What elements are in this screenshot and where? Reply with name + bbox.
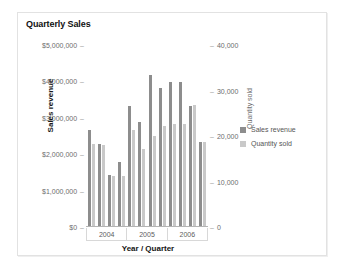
y-axis-left-tick: $5,000,000– [42,42,84,49]
x-axis-baseline [86,226,208,227]
x-axis-group-label: 2005 [127,228,167,240]
tick-mark: – [210,178,214,185]
quarter-bar-group [96,45,106,226]
y-axis-left-title: Sales revenue [46,66,55,146]
tick-mark: – [210,42,214,49]
bar-sales-revenue [169,82,172,226]
y-axis-right-tick: –30,000 [210,87,238,94]
quarter-bar-group [137,45,147,226]
y-axis-left-tick: $1,000,000– [42,187,84,194]
plot-area [86,45,208,227]
quarter-bar-group [178,45,188,226]
bar-quantity-sold [203,142,206,226]
y-axis-left-tick-label: $2,000,000 [42,151,77,158]
bar-sales-revenue [128,106,131,226]
bar-sales-revenue [189,106,192,226]
bar-quantity-sold [183,124,186,226]
bar-sales-revenue [149,75,152,226]
x-axis-group-label: 2004 [87,228,127,240]
quarter-bar-group [117,45,127,226]
quarter-bar-group [127,45,137,226]
bar-quantity-sold [153,136,156,226]
bar-quantity-sold [102,145,105,226]
bar-quantity-sold [132,130,135,226]
legend-label: Sales revenue [251,126,296,133]
quarter-bar-group [157,45,167,226]
y-axis-right-tick-label: 40,000 [217,42,238,49]
y-axis-left-tick-label: $0 [69,224,77,231]
bar-quantity-sold [122,176,125,226]
x-axis-title: Year / Quarter [58,244,238,253]
y-axis-right-tick-label: 0 [217,224,221,231]
quarter-bar-group [106,45,116,226]
bar-quantity-sold [112,176,115,226]
bar-sales-revenue [138,122,141,226]
quarter-bar-group [188,45,198,226]
bar-quantity-sold [173,124,176,226]
chart-legend: Sales revenueQuantity sold [240,126,326,154]
tick-mark: – [210,133,214,140]
y-axis-right-tick: –10,000 [210,178,238,185]
x-axis-group-label: 2006 [168,228,207,240]
y-axis-right-tick: –40,000 [210,42,238,49]
tick-mark: – [80,78,84,85]
bar-sales-revenue [98,144,101,226]
legend-item[interactable]: Sales revenue [240,126,326,133]
tick-mark: – [80,42,84,49]
y-axis-right-tick: –0 [210,224,221,231]
y-axis-right-tick-label: 10,000 [217,178,238,185]
bar-quantity-sold [142,149,145,226]
bar-series-container [86,45,208,226]
bar-sales-revenue [88,130,91,226]
bar-sales-revenue [179,82,182,226]
tick-mark: – [80,187,84,194]
tick-mark: – [80,224,84,231]
chart-title: Quarterly Sales [26,19,91,29]
chart-panel: Quarterly Sales $0–$1,000,000–$2,000,000… [17,12,327,256]
bar-sales-revenue [199,142,202,226]
y-axis-left-tick: $2,000,000– [42,151,84,158]
legend-swatch-icon [240,141,246,147]
legend-label: Quantity sold [251,140,292,147]
x-axis-groups: 200420052006 [86,228,208,241]
tick-mark: – [80,151,84,158]
bar-sales-revenue [159,88,162,226]
y-axis-left-tick-label: $5,000,000 [42,42,77,49]
quarter-bar-group [147,45,157,226]
bar-quantity-sold [193,105,196,226]
tick-mark: – [210,87,214,94]
legend-swatch-icon [240,127,246,133]
bar-quantity-sold [163,126,166,226]
chart-screenshot: Quarterly Sales $0–$1,000,000–$2,000,000… [0,0,347,272]
y-axis-left-tick-label: $1,000,000 [42,187,77,194]
quarter-bar-group [198,45,208,226]
y-axis-right-tick: –20,000 [210,133,238,140]
legend-item[interactable]: Quantity sold [240,140,326,147]
tick-mark: – [210,224,214,231]
quarter-bar-group [167,45,177,226]
bar-quantity-sold [92,144,95,226]
y-axis-right-tick-label: 30,000 [217,87,238,94]
bar-sales-revenue [108,175,111,226]
tick-mark: – [80,114,84,121]
y-axis-right-tick-label: 20,000 [217,133,238,140]
y-axis-left-tick: $0– [69,224,84,231]
bar-sales-revenue [118,162,121,226]
quarter-bar-group [86,45,96,226]
